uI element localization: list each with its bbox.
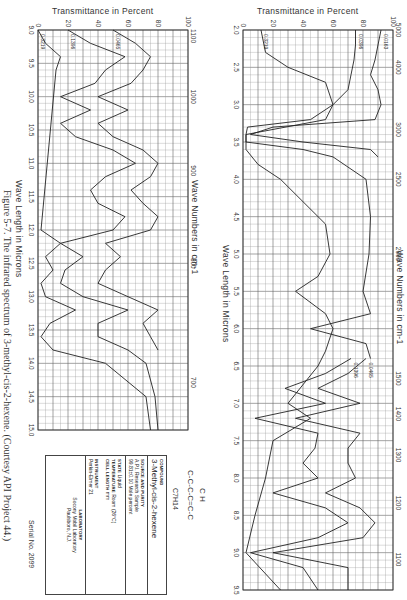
state-label: STATE xyxy=(117,459,122,473)
x-tick-label: 10.0 xyxy=(28,90,35,103)
x-tick-label: 12.0 xyxy=(28,224,35,237)
spectrum-chart-1: 2.02.53.03.54.04.55.05.56.06.57.07.58.08… xyxy=(207,0,407,600)
x-tick-label: 7.0 xyxy=(233,399,240,408)
x-tick-label: 5.5 xyxy=(233,287,240,296)
concentration-label: 0.0163 xyxy=(383,34,389,50)
x-tick-label: 15.0 xyxy=(28,424,35,437)
x-tick-label: 14.0 xyxy=(28,357,35,370)
y-tick-label: 80 xyxy=(155,20,162,28)
x-tick-label: 3.5 xyxy=(233,137,240,146)
x-tick-label: 10.5 xyxy=(28,124,35,137)
state-row: STATE Liquid xyxy=(117,459,123,591)
wavenumber-tick-label: 2000 xyxy=(395,247,402,262)
location-value: Paulsboro, N.J. xyxy=(66,459,72,591)
transmittance-axis-title-2: Transmittance in Percent xyxy=(52,6,153,16)
laboratory-label: LABORATORY xyxy=(78,459,83,591)
y-tick-label: 20 xyxy=(270,20,277,28)
structure-formula: C-C-C-C=C-C xyxy=(186,470,195,520)
y-tick-label: 0 xyxy=(240,23,247,27)
wavenumber-tick-label: 1200 xyxy=(395,496,402,511)
spectrum-panel-2: Wave Numbers in cm-1 9.09.510.010.511.01… xyxy=(2,0,202,440)
x-tick-label: 14.5 xyxy=(28,390,35,403)
x-tick-label: 9.5 xyxy=(233,585,240,594)
spectrum-page: Wave Numbers in cm-1 2.02.53.03.54.04.55… xyxy=(0,0,407,600)
x-tick-label: 7.5 xyxy=(233,436,240,445)
x-tick-label: 12.5 xyxy=(28,257,35,270)
x-tick-label: 13.5 xyxy=(28,324,35,337)
y-tick-label: 60 xyxy=(330,20,337,28)
wavenumber-tick-label: 1500 xyxy=(395,371,402,386)
x-tick-label: 6.0 xyxy=(233,324,240,333)
concentration-label: 0.3219 xyxy=(263,34,269,50)
wavenumber-tick-label: 4000 xyxy=(395,60,402,75)
source-value: A.P.I. Research Sample xyxy=(134,459,140,591)
y-tick-label: 80 xyxy=(360,20,367,28)
spectrum-chart-2: 9.09.510.010.511.011.512.012.513.013.514… xyxy=(2,0,202,440)
y-tick-label: 40 xyxy=(300,20,307,28)
concentration-label: 0.3219 xyxy=(40,34,46,50)
wavenumber-tick-label: 1100 xyxy=(395,552,402,566)
transmittance-axis-title: Transmittance in Percent xyxy=(257,6,358,16)
compound-label: COMPOUND xyxy=(159,459,164,591)
wavenumber-tick-label: 1400 xyxy=(395,407,402,422)
figure-caption: Figure 5-7. The infrared spectrum of 3-m… xyxy=(2,190,13,541)
structure-branch: C H xyxy=(198,488,207,502)
concentration-label: 0.0465 xyxy=(368,363,374,379)
x-tick-label: 13.0 xyxy=(28,290,35,303)
cell-value: mm xyxy=(105,492,111,500)
laboratory-value: Socony Mobil Laboratory xyxy=(72,459,78,591)
y-tick-label: 100 xyxy=(185,16,192,27)
temperature-row: TEMPERATURE Room (26°C) xyxy=(111,459,117,591)
purity-value: 99.81±0.10 Mole percent xyxy=(128,459,134,591)
temperature-value: Room (26°C) xyxy=(111,494,117,523)
source-label: SOURCE AND PURITY xyxy=(140,459,145,591)
x-tick-label: 2.0 xyxy=(233,25,240,34)
wavelength-axis-title-2: Wave Length in Microns xyxy=(14,180,24,277)
x-tick-label: 3.0 xyxy=(233,100,240,109)
y-tick-label: 40 xyxy=(95,20,102,28)
wavenumber-tick-label: 800 xyxy=(190,258,197,269)
wavenumber-tick-label: 3000 xyxy=(395,122,402,137)
x-tick-label: 8.5 xyxy=(233,511,240,520)
x-tick-label: 2.5 xyxy=(233,63,240,72)
concentration-label: 0.0465 xyxy=(115,34,121,50)
wavelength-axis-title: Wave Length in Microns xyxy=(221,245,231,342)
spectrum-panel-1: Wave Numbers in cm-1 2.02.53.03.54.04.55… xyxy=(207,0,407,600)
x-tick-label: 9.0 xyxy=(233,548,240,557)
x-tick-label: 11.0 xyxy=(28,157,35,170)
x-tick-label: 5.0 xyxy=(233,249,240,258)
x-tick-label: 8.0 xyxy=(233,473,240,482)
x-tick-label: 4.0 xyxy=(233,175,240,184)
x-tick-label: 11.5 xyxy=(28,191,35,204)
cell-label: CELL LENGTH xyxy=(105,459,110,490)
x-tick-label: 6.5 xyxy=(233,361,240,370)
x-tick-label: 4.5 xyxy=(233,212,240,221)
concentration-label: 0.1396 xyxy=(70,34,76,50)
info-box: COMPOUND 3-Methyl-cis-2-hexene SOURCE AN… xyxy=(45,455,167,595)
y-tick-label: 0 xyxy=(35,23,42,27)
concentration-label: 0.0396 xyxy=(358,34,364,50)
x-tick-label: 9.5 xyxy=(28,59,35,68)
serial-number: Serial No. 2099 xyxy=(28,520,35,568)
wavenumber-tick-label: 700 xyxy=(190,377,197,388)
x-tick-label: 9.0 xyxy=(28,25,35,34)
state-value: Liquid xyxy=(117,475,123,488)
wavenumber-tick-label: 5000 xyxy=(395,23,402,38)
temperature-label: TEMPERATURE xyxy=(111,459,116,493)
instrument-label: INSTRUMENT xyxy=(94,459,99,591)
concentration-label: 0.1396 xyxy=(353,363,359,379)
compound-name: 3-Methyl-cis-2-hexene xyxy=(150,459,159,591)
y-tick-label: 20 xyxy=(65,20,72,28)
y-tick-label: 60 xyxy=(125,20,132,28)
cell-row: CELL LENGTH mm xyxy=(105,459,111,591)
wavenumber-tick-label: 1100 xyxy=(190,29,197,43)
wavenumber-tick-label: 900 xyxy=(190,165,197,176)
wavenumber-tick-label: 2500 xyxy=(395,172,402,187)
instrument-value: Perkin-Elmer 21 xyxy=(88,459,94,591)
wavenumber-tick-label: 1000 xyxy=(190,89,197,104)
molecular-formula: C7H14 xyxy=(172,488,179,510)
wavenumber-tick-label: 1300 xyxy=(395,448,402,463)
